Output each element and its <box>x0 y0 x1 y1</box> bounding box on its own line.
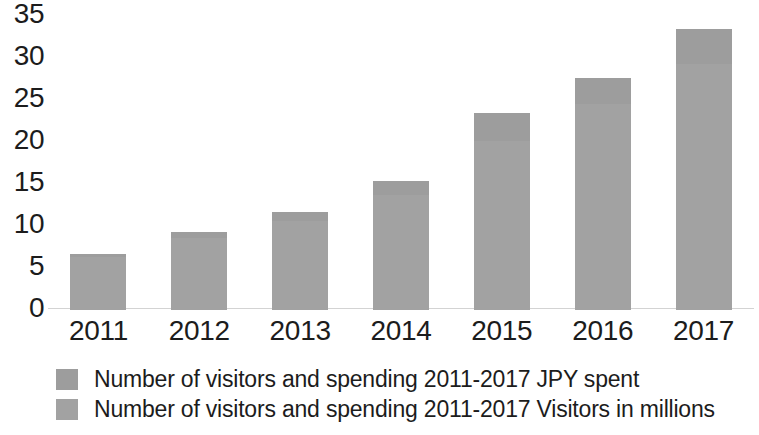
bar-segment <box>373 181 429 196</box>
bar-chart: 35 30 25 20 15 10 5 0 201120122013201420… <box>0 0 759 435</box>
bar-segment <box>171 232 227 238</box>
bar-segment <box>70 257 126 310</box>
y-axis: 35 30 25 20 15 10 5 0 <box>0 0 44 310</box>
plot-area <box>48 8 754 310</box>
legend-swatch-icon <box>56 369 78 390</box>
bar-segment <box>676 64 732 310</box>
bar-2014 <box>373 181 429 310</box>
x-tick-label: 2011 <box>43 314 153 348</box>
y-tick-label: 30 <box>0 42 44 70</box>
chart-legend: Number of visitors and spending 2011-201… <box>56 364 746 424</box>
y-tick-label: 10 <box>0 210 44 238</box>
bar-2011 <box>70 254 126 310</box>
bar-2015 <box>474 113 530 310</box>
legend-item: Number of visitors and spending 2011-201… <box>56 364 746 394</box>
x-tick-label: 2012 <box>144 314 254 348</box>
bar-segment <box>70 254 126 257</box>
bar-segment <box>474 113 530 141</box>
bar-segment <box>272 221 328 310</box>
bar-segment <box>373 195 429 310</box>
bar-2012 <box>171 232 227 310</box>
y-tick-label: 5 <box>0 252 44 280</box>
y-tick-label: 0 <box>0 294 44 322</box>
x-tick-label: 2014 <box>346 314 456 348</box>
bar-segment <box>676 29 732 64</box>
bar-2013 <box>272 212 328 310</box>
legend-item: Number of visitors and spending 2011-201… <box>56 394 746 424</box>
bar-segment <box>575 104 631 310</box>
bar-segment <box>575 78 631 105</box>
bar-2017 <box>676 29 732 310</box>
x-tick-label: 2013 <box>245 314 355 348</box>
y-tick-label: 35 <box>0 0 44 28</box>
legend-swatch-icon <box>56 399 78 420</box>
bar-segment <box>171 238 227 310</box>
y-tick-label: 15 <box>0 168 44 196</box>
y-tick-label: 25 <box>0 84 44 112</box>
x-tick-label: 2015 <box>447 314 557 348</box>
bar-2016 <box>575 78 631 310</box>
legend-item-label: Number of visitors and spending 2011-201… <box>94 366 639 392</box>
x-tick-label: 2017 <box>649 314 759 348</box>
legend-item-label: Number of visitors and spending 2011-201… <box>94 396 715 422</box>
x-tick-label: 2016 <box>548 314 658 348</box>
bar-segment <box>272 212 328 221</box>
x-axis: 2011201220132014201520162017 <box>48 314 754 350</box>
y-tick-label: 20 <box>0 126 44 154</box>
bar-segment <box>474 141 530 310</box>
